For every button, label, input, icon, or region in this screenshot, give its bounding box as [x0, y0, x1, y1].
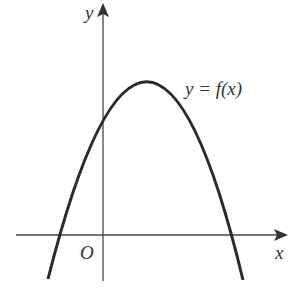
parabola-curve [48, 82, 243, 280]
curve-label: y = f(x) [185, 79, 242, 98]
origin-label: O [80, 243, 94, 262]
function-graph-diagram: y x O y = f(x) [0, 0, 291, 293]
x-axis-label: x [275, 243, 283, 262]
y-axis-label: y [85, 3, 93, 22]
graph-canvas [0, 0, 291, 293]
